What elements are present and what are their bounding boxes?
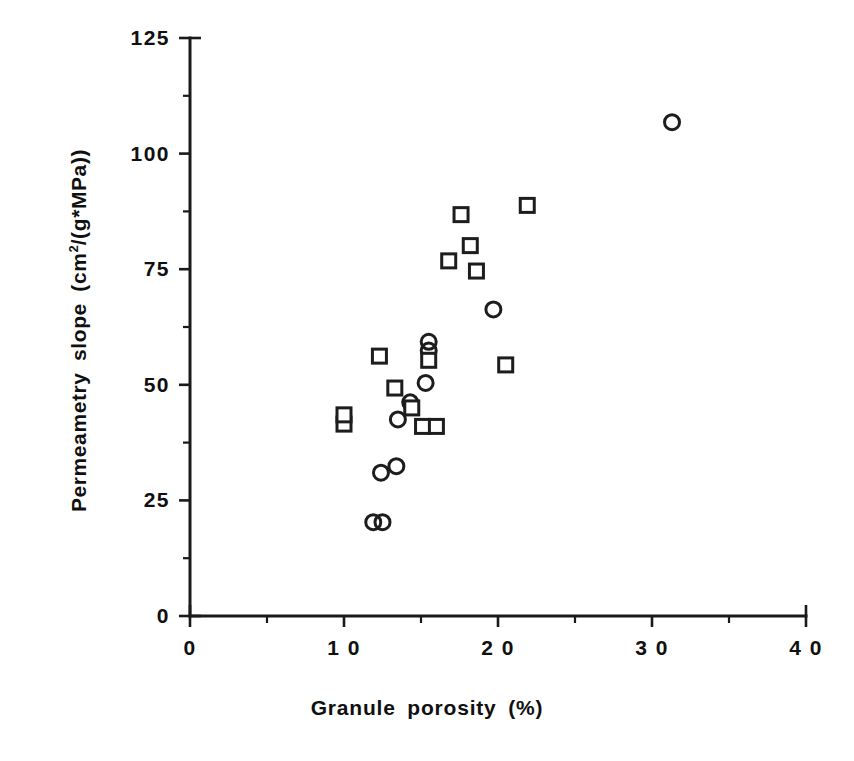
data-point-square	[454, 208, 468, 222]
data-point-square	[499, 358, 513, 372]
y-axis-title-superscript: 2	[66, 245, 81, 252]
data-point-circle	[389, 459, 404, 474]
x-axis-title: Granule porosity (%)	[0, 696, 854, 720]
data-point-circle	[665, 115, 680, 130]
data-point-square	[405, 401, 419, 415]
x-tick-label: 1 0	[327, 636, 361, 660]
data-point-square	[469, 264, 483, 278]
x-tick-label: 3 0	[635, 636, 669, 660]
data-point-circle	[486, 302, 501, 317]
data-point-circle	[373, 465, 388, 480]
x-tick-label: 2 0	[481, 636, 515, 660]
data-point-circle	[375, 515, 390, 530]
x-tick-label: 4 0	[789, 636, 823, 660]
data-point-square	[422, 353, 436, 367]
data-point-square	[463, 239, 477, 253]
axes-group	[179, 38, 806, 627]
data-point-square	[388, 381, 402, 395]
data-point-circle	[390, 412, 405, 427]
y-axis-title-prefix: Permeametry slope (cm	[67, 253, 90, 513]
data-point-square	[416, 419, 430, 433]
y-axis-title-suffix: /(g*MPa))	[67, 149, 90, 245]
x-tick-label: 0	[183, 636, 196, 660]
chart-figure: 0255075100125 01 02 03 04 0 Permeametry …	[0, 0, 854, 761]
data-markers-group	[337, 115, 680, 530]
data-point-square	[337, 408, 351, 422]
y-axis-title: Permeametry slope (cm2/(g*MPa))	[66, 31, 91, 631]
data-point-square	[372, 349, 386, 363]
data-point-square	[520, 198, 534, 212]
data-point-square	[442, 254, 456, 268]
data-point-circle	[418, 375, 433, 390]
data-point-square	[429, 419, 443, 433]
